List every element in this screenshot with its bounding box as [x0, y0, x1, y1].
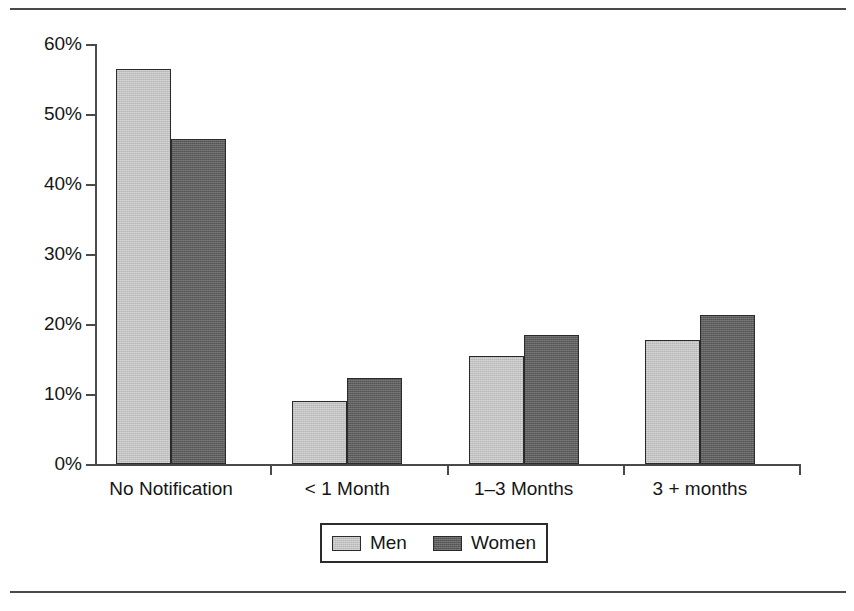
y-tick-mark: [86, 184, 96, 186]
y-tick-label: 60%: [44, 33, 82, 55]
bar-men-0: [116, 69, 171, 465]
bar-women-2: [524, 335, 579, 465]
figure-panel: 0%10%20%30%40%50%60% No Notification< 1 …: [0, 0, 854, 611]
y-tick-label: 50%: [44, 103, 82, 125]
x-tick-mark: [270, 464, 272, 475]
legend-swatch-men-icon: [332, 536, 361, 551]
x-tick-mark: [799, 464, 801, 475]
bar-women-1: [347, 378, 402, 464]
plot-area: 0%10%20%30%40%50%60%: [95, 44, 800, 464]
y-tick-label: 30%: [44, 243, 82, 265]
top-divider-rule: [10, 8, 846, 10]
y-tick-mark: [86, 464, 96, 466]
legend-swatch-women-icon: [433, 536, 462, 551]
x-tick-mark: [447, 464, 449, 475]
y-tick-mark: [86, 44, 96, 46]
bar-men-2: [469, 356, 524, 465]
bar-men-1: [292, 401, 347, 464]
x-axis-label-2: 1–3 Months: [474, 478, 573, 500]
y-tick-label: 20%: [44, 313, 82, 335]
legend-item-women: Women: [433, 532, 536, 554]
bar-men-3: [645, 340, 700, 464]
y-tick-mark: [86, 254, 96, 256]
y-tick-label: 10%: [44, 383, 82, 405]
x-tick-mark: [623, 464, 625, 475]
y-tick-mark: [86, 114, 96, 116]
y-tick-mark: [86, 394, 96, 396]
legend-item-men: Men: [332, 532, 407, 554]
x-axis-label-0: No Notification: [109, 478, 233, 500]
legend-label-men: Men: [370, 532, 407, 554]
legend-label-women: Women: [471, 532, 536, 554]
bar-women-3: [700, 315, 755, 464]
x-axis-label-1: < 1 Month: [305, 478, 390, 500]
bottom-divider-rule: [10, 591, 846, 593]
y-tick-label: 40%: [44, 173, 82, 195]
x-axis-label-3: 3 + months: [653, 478, 748, 500]
bar-women-0: [171, 139, 226, 465]
y-tick-mark: [86, 324, 96, 326]
chart-legend: Men Women: [320, 523, 548, 563]
y-tick-label: 0%: [55, 453, 82, 475]
